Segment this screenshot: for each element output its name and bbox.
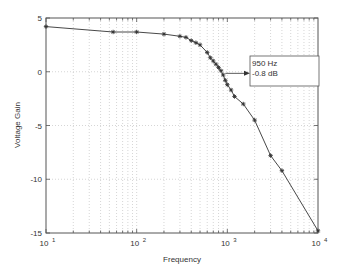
x-tick-exponent: 2	[143, 237, 147, 243]
bode-magnitude-chart: 10110210310450-5-10-15 950 Hz -0.8 dB Fr…	[0, 0, 340, 271]
y-tick-label: -15	[30, 229, 42, 238]
star-marker-icon	[241, 102, 245, 106]
star-marker-icon	[316, 229, 320, 233]
star-marker-icon	[111, 30, 115, 34]
grid-lines	[46, 18, 318, 233]
x-tick-label: 10	[40, 239, 49, 248]
star-marker-icon	[198, 43, 202, 47]
y-tick-label: -5	[35, 122, 43, 131]
star-marker-icon	[178, 34, 182, 38]
star-marker-icon	[44, 24, 48, 28]
y-tick-label: 5	[38, 14, 43, 23]
x-tick-label: 10	[130, 239, 139, 248]
star-marker-icon	[252, 118, 256, 122]
star-marker-icon	[205, 50, 209, 54]
annotation-frequency: 950 Hz	[252, 59, 277, 68]
star-marker-icon	[134, 30, 138, 34]
star-marker-icon	[184, 35, 188, 39]
x-tick-exponent: 1	[52, 237, 56, 243]
star-marker-icon	[194, 41, 198, 45]
x-axis-title: Frequency	[163, 255, 201, 264]
star-marker-icon	[225, 82, 229, 86]
star-marker-icon	[221, 73, 225, 77]
y-tick-label: -10	[30, 175, 42, 184]
x-tick-exponent: 4	[324, 237, 328, 243]
star-marker-icon	[232, 94, 236, 98]
star-marker-icon	[162, 32, 166, 36]
x-tick-label: 10	[312, 239, 321, 248]
star-marker-icon	[268, 153, 272, 157]
x-tick-exponent: 3	[233, 237, 237, 243]
annotation: 950 Hz -0.8 dB	[225, 56, 319, 86]
x-tick-label: 10	[221, 239, 230, 248]
star-marker-icon	[229, 88, 233, 92]
annotation-gain: -0.8 dB	[252, 69, 278, 78]
star-marker-icon	[280, 168, 284, 172]
axis-ticks: 10110210310450-5-10-15	[30, 14, 328, 248]
star-marker-icon	[214, 62, 218, 66]
star-marker-icon	[223, 78, 227, 82]
star-marker-icon	[189, 38, 193, 42]
star-marker-icon	[216, 65, 220, 69]
star-marker-icon	[219, 68, 223, 72]
y-axis-title: Voltage Gain	[13, 102, 22, 148]
y-tick-label: 0	[38, 68, 43, 77]
